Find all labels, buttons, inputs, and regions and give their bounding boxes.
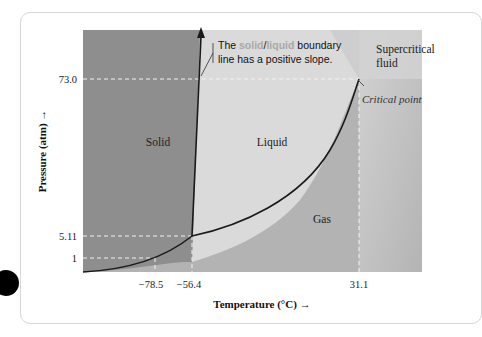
supercritical-label-2: fluid — [376, 57, 398, 69]
x-tick-31-1: 31.1 — [350, 279, 368, 290]
y-tick-73: 73.0 — [59, 74, 77, 85]
x-tick-78-5: −78.5 — [139, 279, 163, 290]
x-axis-title: Temperature (°C) → — [213, 298, 310, 311]
x-tick-56-4: −56.4 — [177, 279, 202, 290]
y-tick-5-11: 5.11 — [59, 231, 77, 242]
critical-point-label: Critical point — [362, 93, 423, 105]
solid-label: Solid — [146, 136, 171, 148]
liquid-label: Liquid — [257, 136, 288, 149]
annotation-line-2: line has a positive slope. — [218, 53, 332, 65]
supercritical-label-1: Supercritical — [376, 43, 435, 56]
y-tick-1: 1 — [72, 253, 77, 264]
y-axis-title: Pressure (atm) → — [36, 110, 49, 193]
gas-label: Gas — [313, 213, 331, 225]
annotation-line-1: The solid/liquid boundary — [218, 39, 342, 51]
